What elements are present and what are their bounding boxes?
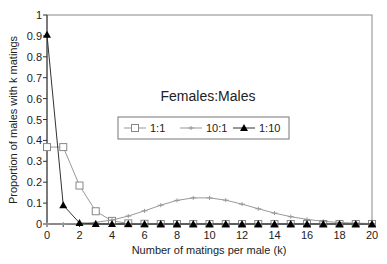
chart-title: Females:Males	[161, 88, 256, 104]
x-tick-label: 14	[268, 229, 280, 241]
y-tick-label: 0.3	[27, 155, 42, 167]
square-marker	[92, 208, 99, 215]
triangle-marker	[43, 31, 51, 38]
x-axis-label: Number of matings per male (k)	[132, 244, 287, 256]
y-tick-label: 0.4	[27, 134, 42, 146]
y-tick-label: 0.6	[27, 93, 42, 105]
square-marker	[60, 144, 67, 151]
star-marker	[158, 203, 164, 207]
legend-label: 1:1	[150, 122, 165, 134]
chart: 00.10.20.30.40.50.60.70.80.91 0246810121…	[0, 0, 387, 264]
star-marker	[174, 198, 180, 202]
y-tick-label: 0.1	[27, 197, 42, 209]
y-tick-label: 0.8	[27, 51, 42, 63]
y-axis: 00.10.20.30.40.50.60.70.80.91	[27, 9, 47, 230]
x-tick-label: 16	[301, 229, 313, 241]
y-tick-label: 0.5	[27, 114, 42, 126]
star-marker	[223, 198, 229, 202]
square-marker	[44, 144, 51, 151]
x-tick-label: 6	[141, 229, 147, 241]
x-tick-label: 8	[174, 229, 180, 241]
x-tick-label: 20	[366, 229, 378, 241]
y-tick-label: 0.9	[27, 30, 42, 42]
star-marker	[207, 196, 213, 200]
star-marker	[60, 222, 66, 226]
star-marker	[142, 209, 148, 213]
triangle-marker	[59, 201, 67, 208]
star-marker	[288, 215, 294, 219]
star-marker	[255, 207, 261, 211]
x-tick-label: 0	[44, 229, 50, 241]
square-marker	[76, 182, 83, 189]
y-tick-label: 0.2	[27, 176, 42, 188]
y-tick-label: 0.7	[27, 72, 42, 84]
x-tick-label: 10	[203, 229, 215, 241]
legend: 1:110:11:10	[118, 117, 289, 139]
star-marker	[272, 211, 278, 215]
y-tick-label: 1	[36, 9, 42, 21]
y-tick-label: 0	[36, 218, 42, 230]
x-tick-label: 12	[236, 229, 248, 241]
series-1-1	[44, 144, 376, 228]
star-marker	[239, 202, 245, 206]
y-axis-label: Proportion of males with k matings	[7, 35, 19, 204]
legend-label: 1:10	[259, 122, 280, 134]
star-marker	[125, 214, 131, 218]
x-tick-label: 4	[109, 229, 115, 241]
star-marker	[44, 222, 50, 226]
x-tick-label: 2	[76, 229, 82, 241]
legend-label: 10:1	[206, 122, 227, 134]
x-tick-label: 18	[333, 229, 345, 241]
square-marker	[132, 125, 139, 132]
star-marker	[190, 196, 196, 200]
